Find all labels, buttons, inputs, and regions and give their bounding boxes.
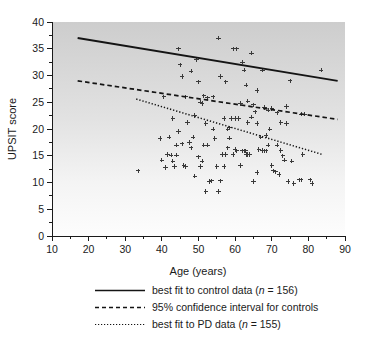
x-tick-label: 90 bbox=[339, 243, 351, 255]
y-axis-ticks: 0510152025303540 bbox=[32, 16, 52, 242]
legend-item: best fit to control data (n = 156) bbox=[95, 284, 298, 296]
chart-legend: best fit to control data (n = 156)95% co… bbox=[95, 284, 318, 330]
upsit-age-scatter-chart: 0510152025303540 102030405060708090 Age … bbox=[0, 0, 375, 342]
y-tick-label: 20 bbox=[32, 123, 44, 135]
x-axis-title: Age (years) bbox=[170, 265, 227, 277]
x-tick-label: 40 bbox=[156, 243, 168, 255]
x-tick-label: 20 bbox=[83, 243, 95, 255]
y-tick-label: 0 bbox=[38, 230, 44, 242]
y-tick-label: 5 bbox=[38, 203, 44, 215]
y-tick-label: 30 bbox=[32, 69, 44, 81]
x-tick-label: 10 bbox=[46, 243, 58, 255]
y-tick-label: 10 bbox=[32, 176, 44, 188]
legend-label: best fit to control data (n = 156) bbox=[152, 284, 298, 296]
y-tick-label: 25 bbox=[32, 96, 44, 108]
figure-container: 0510152025303540 102030405060708090 Age … bbox=[0, 0, 375, 342]
x-axis-ticks: 102030405060708090 bbox=[46, 236, 351, 255]
y-tick-label: 15 bbox=[32, 149, 44, 161]
x-tick-label: 80 bbox=[303, 243, 315, 255]
x-tick-label: 70 bbox=[266, 243, 278, 255]
y-tick-label: 35 bbox=[32, 42, 44, 54]
legend-label: best fit to PD data (n = 155) bbox=[152, 318, 281, 330]
y-tick-label: 40 bbox=[32, 16, 44, 28]
legend-item: best fit to PD data (n = 155) bbox=[95, 318, 281, 330]
x-tick-label: 50 bbox=[193, 243, 205, 255]
legend-label: 95% confidence interval for controls bbox=[152, 301, 318, 313]
x-tick-label: 60 bbox=[229, 243, 241, 255]
legend-item: 95% confidence interval for controls bbox=[95, 301, 318, 313]
plot-background bbox=[52, 22, 345, 236]
x-tick-label: 30 bbox=[119, 243, 131, 255]
y-axis-title: UPSIT score bbox=[6, 98, 18, 160]
